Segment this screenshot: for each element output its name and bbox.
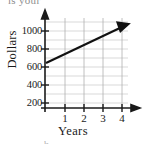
x-axis-title: Years (0, 124, 146, 139)
x-tick-labels: 1 2 3 4 (0, 0, 146, 144)
x-tick-label-4: 4 (115, 113, 129, 124)
clipped-text-fragment-bottom: b. (44, 139, 104, 144)
x-tick-label-2: 2 (77, 113, 91, 124)
x-tick-label-1: 1 (58, 113, 72, 124)
chart-figure: is your (0, 0, 146, 144)
y-axis-title: Dollars (5, 20, 20, 80)
x-tick-label-3: 3 (96, 113, 110, 124)
